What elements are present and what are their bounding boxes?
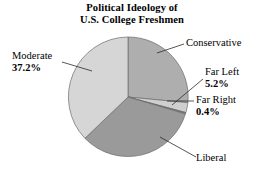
- slice-label-moderate: Moderate 37.2%: [12, 50, 52, 73]
- pie-slice-conservative: [128, 37, 188, 103]
- slice-label-conservative: Conservative: [186, 37, 241, 49]
- slice-label-far-right-name: Far Right: [196, 94, 236, 106]
- pie-chart-figure: Political Ideology of U.S. College Fresh…: [0, 0, 264, 176]
- slice-label-far-left-name: Far Left: [205, 66, 239, 78]
- slice-label-moderate-name: Moderate: [12, 50, 52, 62]
- slice-label-far-left-percent: 5.2%: [205, 78, 239, 90]
- slice-label-far-right-percent: 0.4%: [196, 106, 236, 118]
- slice-label-far-left: Far Left 5.2%: [205, 66, 239, 89]
- slice-label-liberal: Liberal: [196, 152, 226, 164]
- slice-label-conservative-name: Conservative: [186, 37, 241, 49]
- leader-line-liberal: [160, 137, 196, 157]
- slice-label-moderate-percent: 37.2%: [12, 62, 52, 74]
- slice-label-far-right: Far Right 0.4%: [196, 94, 236, 117]
- slice-label-liberal-name: Liberal: [196, 152, 226, 164]
